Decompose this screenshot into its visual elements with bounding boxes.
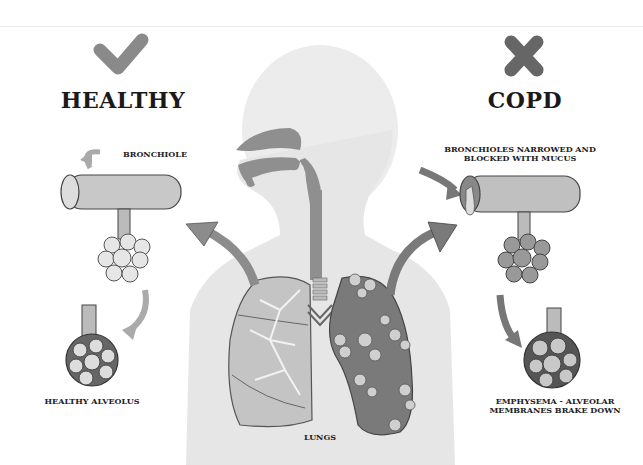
- healthy-alveolus-label: HEALTHY ALVEOLUS: [32, 397, 152, 406]
- emphysema-label: EMPHYSEMA - ALVEOLAR MEMBRANES BRAKE DOW…: [480, 397, 630, 415]
- copd-title: COPD: [470, 88, 580, 113]
- x-icon: [511, 42, 537, 70]
- copd-bronchiole-label: BRONCHIOLES NARROWED AND BLOCKED WITH MU…: [430, 145, 610, 163]
- bronchiole-label: BRONCHIOLE: [110, 150, 200, 159]
- healthy-alveolus: [66, 305, 118, 386]
- healthy-bronchiole: [61, 150, 181, 282]
- copd-bronchiole-label-line2: BLOCKED WITH MUCUS: [430, 154, 610, 163]
- emphysema-alveolus: [524, 308, 580, 388]
- healthy-title: HEALTHY: [58, 88, 188, 113]
- check-icon: [100, 40, 142, 68]
- arrow-copd-down: [500, 295, 522, 348]
- emphysema-label-line2: MEMBRANES BRAKE DOWN: [480, 406, 630, 415]
- arrow-healthy-down: [122, 290, 146, 340]
- lungs-label: LUNGS: [295, 433, 345, 442]
